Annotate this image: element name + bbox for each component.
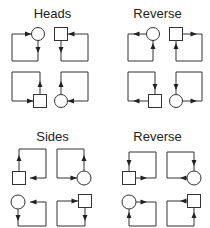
- reverse-circle-loop-tl: [128, 28, 160, 62]
- heads-circle-loop-tl: [12, 28, 45, 62]
- square-node: [149, 95, 162, 108]
- square-node: [55, 28, 68, 41]
- circle-node: [32, 28, 45, 41]
- circle-node: [77, 171, 91, 185]
- square-node: [79, 195, 92, 208]
- circle-node: [147, 28, 160, 41]
- circle-node: [187, 171, 201, 185]
- square-node: [188, 195, 201, 208]
- heads-reverse-panel: [128, 28, 202, 108]
- heads-square-loop-bl: [12, 72, 47, 108]
- diagram-canvas: [0, 0, 210, 228]
- sides-reverse-panel: [122, 152, 201, 226]
- sides-reverse-square-loop-br: [167, 195, 201, 227]
- circle-node: [170, 95, 183, 108]
- heads-circle-loop-br: [55, 72, 89, 108]
- sides-circle-loop-tr: [57, 149, 91, 185]
- square-node: [170, 28, 183, 41]
- sides-reverse-circle-loop-tr: [167, 152, 201, 185]
- sides-circle-loop-bl: [11, 195, 46, 226]
- circle-node: [11, 195, 25, 209]
- reverse-circle-loop-br: [170, 72, 203, 108]
- reverse-square-loop-bl: [128, 72, 162, 108]
- reverse-square-loop-tr: [170, 28, 203, 62]
- heads-panel: [12, 28, 88, 108]
- sides-square-loop-br: [57, 195, 92, 227]
- sides-square-loop-tl: [13, 149, 47, 185]
- square-node: [34, 95, 47, 108]
- circle-node: [122, 195, 136, 209]
- square-node: [13, 172, 26, 185]
- sides-panel: [11, 149, 92, 226]
- square-node: [123, 172, 136, 185]
- sides-reverse-circle-loop-bl: [122, 195, 156, 226]
- heads-square-loop-tr: [55, 28, 89, 62]
- circle-node: [55, 95, 68, 108]
- sides-reverse-square-loop-tl: [123, 152, 157, 185]
